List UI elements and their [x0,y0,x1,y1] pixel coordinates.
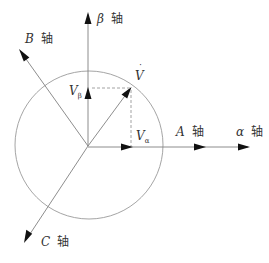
alpha-axis-arrowhead-icon [238,144,250,151]
alpha-axis-label: α 轴 [236,124,263,139]
beta-axis [85,12,92,146]
space-vector-diagram: β 轴 B 轴 C 轴 A 轴 α 轴 V ˙ Vβ Vα [0,0,269,263]
beta-axis-arrowhead-icon [85,12,92,24]
v-alpha-arrowhead-icon [121,144,133,151]
v-beta-label: Vβ [69,84,82,100]
v-beta-arrowhead-icon [85,87,92,99]
v-vector [88,87,132,146]
v-alpha-label: Vα [136,129,150,145]
b-axis-arrowhead-icon [19,49,29,62]
a-axis-arrowhead-icon [194,144,206,151]
b-axis-label: B 轴 [24,31,53,46]
alpha-axis [88,144,250,151]
v-vector-arrowhead-icon [122,87,132,99]
beta-axis-label: β 轴 [96,11,123,26]
v-vector-accent: ˙ [138,62,143,73]
c-axis-label: C 轴 [41,234,69,249]
a-axis-label: A 轴 [175,124,204,139]
